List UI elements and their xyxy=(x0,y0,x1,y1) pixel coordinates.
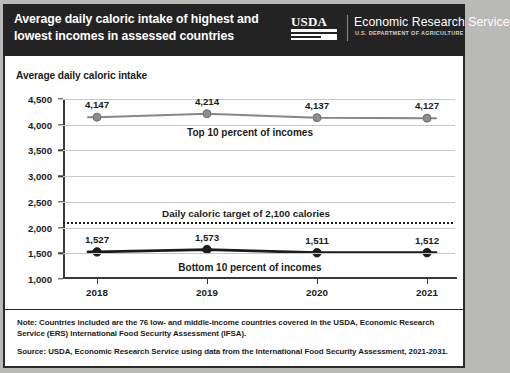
series-annotation-label: Bottom 10 percent of incomes xyxy=(178,262,321,273)
agency-name: Economic Research Service xyxy=(354,15,510,29)
data-point-label: 4,127 xyxy=(415,100,439,111)
data-point-label: 1,573 xyxy=(195,232,219,243)
agency-subtitle: U.S. DEPARTMENT OF AGRICULTURE xyxy=(355,30,464,36)
y-tick-label: 1,000 xyxy=(28,274,52,285)
gridline xyxy=(63,125,455,126)
y-tick-mark xyxy=(58,98,63,99)
data-point-label: 1,527 xyxy=(85,234,109,245)
gridline xyxy=(63,99,455,100)
data-point-label: 4,214 xyxy=(195,96,219,107)
data-point-marker xyxy=(313,114,321,122)
y-tick-mark xyxy=(58,150,63,151)
y-tick-label: 4,000 xyxy=(28,119,52,130)
data-point-label: 1,511 xyxy=(305,235,329,246)
y-tick-mark xyxy=(58,227,63,228)
data-point-label: 4,147 xyxy=(85,99,109,110)
x-tick-label: 2021 xyxy=(416,287,438,298)
x-tick-mark xyxy=(97,279,98,284)
chart-panel: Average daily caloric intake 1,0001,5002… xyxy=(3,56,465,309)
series-annotation-label: Top 10 percent of incomes xyxy=(187,127,313,138)
y-tick-label: 2,000 xyxy=(28,222,52,233)
target-reference-label: Daily caloric target of 2,100 calories xyxy=(162,208,330,219)
usda-wordmark: USDA xyxy=(291,14,327,30)
page-title: Average daily caloric intake of highest … xyxy=(14,11,274,44)
y-tick-mark xyxy=(58,124,63,125)
note-text: Note: Countries included are the 76 low-… xyxy=(17,317,451,340)
x-tick-label: 2019 xyxy=(196,287,218,298)
gridline xyxy=(63,228,455,229)
figure-footer: Note: Countries included are the 76 low-… xyxy=(3,309,465,368)
gridline xyxy=(63,202,455,203)
x-tick-mark xyxy=(427,279,428,284)
figure-header: Average daily caloric intake of highest … xyxy=(3,4,465,56)
logo-divider xyxy=(347,15,348,41)
data-point-label: 4,137 xyxy=(305,100,329,111)
data-point-label: 1,512 xyxy=(415,235,439,246)
data-point-marker xyxy=(93,248,101,256)
gridline xyxy=(63,150,455,151)
x-tick-mark xyxy=(207,279,208,284)
gridline xyxy=(63,176,455,177)
y-tick-label: 3,500 xyxy=(28,145,52,156)
chart-figure: Average daily caloric intake of highest … xyxy=(3,4,465,368)
usda-logo-icon: USDA xyxy=(290,14,344,41)
x-tick-label: 2018 xyxy=(86,287,108,298)
y-tick-mark xyxy=(58,175,63,176)
series-line xyxy=(88,114,436,118)
plot-area: 1,0001,5002,0002,5003,0003,5004,0004,500… xyxy=(63,99,455,279)
gridline xyxy=(63,253,455,254)
y-tick-mark xyxy=(58,201,63,202)
y-tick-label: 2,500 xyxy=(28,196,52,207)
y-tick-label: 4,500 xyxy=(28,94,52,105)
y-tick-mark xyxy=(58,278,63,279)
y-tick-label: 3,000 xyxy=(28,171,52,182)
chart-subtitle: Average daily caloric intake xyxy=(16,70,147,81)
y-tick-mark xyxy=(58,253,63,254)
x-tick-label: 2020 xyxy=(306,287,328,298)
y-tick-label: 1,500 xyxy=(28,248,52,259)
data-point-marker xyxy=(423,114,431,122)
usda-flag-bars-icon xyxy=(291,29,337,40)
source-text: Source: USDA, Economic Research Service … xyxy=(17,346,451,357)
x-tick-mark xyxy=(317,279,318,284)
data-point-marker xyxy=(203,110,211,118)
target-reference-line xyxy=(63,222,453,224)
data-point-marker xyxy=(93,113,101,121)
series-line xyxy=(88,250,436,253)
